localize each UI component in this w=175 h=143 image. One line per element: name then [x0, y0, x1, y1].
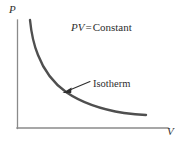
isotherm-label: Isotherm: [93, 79, 130, 90]
isotherm-curve: [30, 20, 146, 115]
isotherm-callout-arrow: [63, 82, 91, 94]
y-axis-label: P: [9, 4, 16, 15]
isotherm-pv-diagram: P V PV=Constant Isotherm: [0, 0, 175, 143]
equation-symbols: PV: [71, 21, 84, 33]
equation-value: Constant: [93, 21, 132, 33]
x-axis-label: V: [167, 126, 174, 137]
equation-operator: =: [84, 21, 92, 33]
callout-arrow-shaft: [69, 82, 91, 91]
equation-annotation: PV=Constant: [71, 22, 132, 33]
